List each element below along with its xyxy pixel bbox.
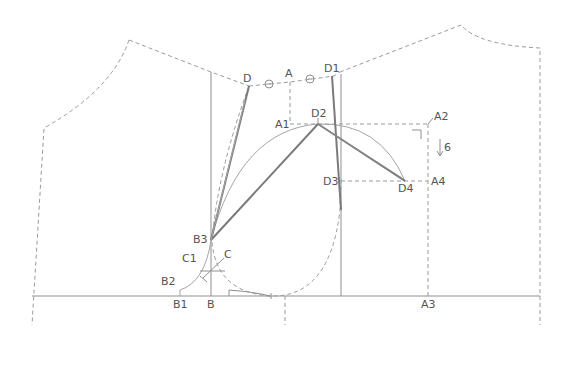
label-d2: D2 xyxy=(311,107,326,120)
label-a1: A1 xyxy=(275,118,290,131)
label-a: A xyxy=(285,67,293,80)
sleeve-cap-curve xyxy=(211,124,405,240)
label-b3: B3 xyxy=(193,233,208,246)
label-d4: D4 xyxy=(398,182,413,195)
label-d1: D1 xyxy=(324,62,339,75)
label-a4: A4 xyxy=(431,175,446,188)
pattern-diagram: D A D1 A1 D2 A2 6 D3 D4 A4 B3 C1 C B2 B1… xyxy=(0,0,571,368)
right-angle-mark xyxy=(412,130,421,139)
line-d1-d3 xyxy=(332,76,341,210)
label-a3: A3 xyxy=(421,298,436,311)
a2-tick xyxy=(428,118,433,124)
underarm-curve xyxy=(180,240,211,296)
label-c: C xyxy=(224,248,232,261)
line-b3-d2 xyxy=(211,124,318,240)
label-b1: B1 xyxy=(173,298,188,311)
label-b2: B2 xyxy=(161,275,176,288)
line-b3-up xyxy=(211,100,245,240)
label-c1: C1 xyxy=(182,252,197,265)
bottom-curve-mark xyxy=(229,290,270,296)
label-six: 6 xyxy=(444,141,451,154)
left-bodice-outline xyxy=(32,40,249,325)
arrow-down-icon xyxy=(437,139,443,156)
label-d: D xyxy=(243,72,251,85)
label-d3: D3 xyxy=(323,175,338,188)
line-d2-d4-thin xyxy=(318,124,402,178)
label-b: B xyxy=(207,298,215,311)
label-a2: A2 xyxy=(434,110,449,123)
